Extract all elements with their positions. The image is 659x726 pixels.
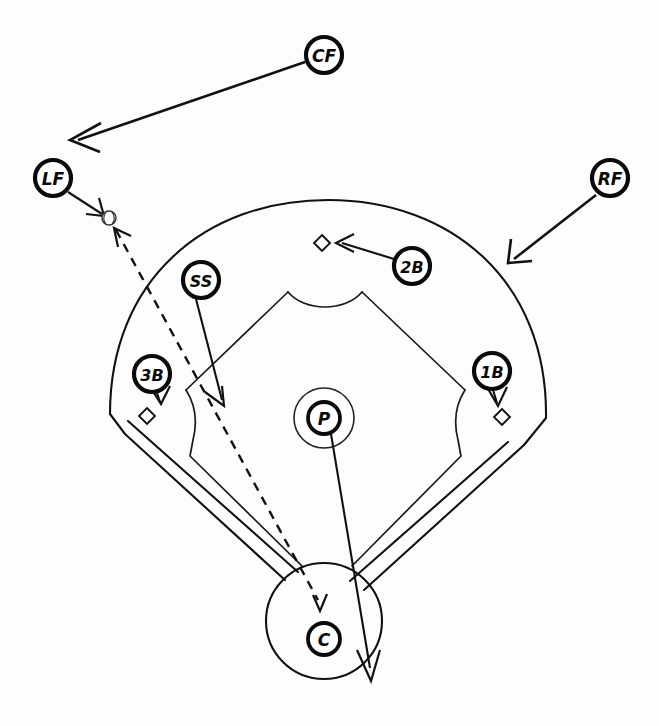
player-badge-1b[interactable]: 1B <box>474 353 510 389</box>
player-badge-p[interactable]: P <box>308 402 340 434</box>
lf-badge-label: LF <box>42 169 65 189</box>
rf-movement-line <box>514 195 596 259</box>
field-geometry <box>110 200 546 679</box>
first-baseman-badge-label: 1B <box>480 363 503 382</box>
player-badge-ss[interactable]: SS <box>183 262 219 298</box>
player-badge-lf[interactable]: LF <box>35 160 71 196</box>
second-baseman-badge-label: 2B <box>400 258 423 277</box>
player-badge-c[interactable]: C <box>308 623 340 655</box>
foul-line-right-outer <box>364 445 524 590</box>
infield-dirt-right <box>352 390 465 566</box>
third-baseman-badge-label: 3B <box>140 366 163 385</box>
diamond-arc-behind-second <box>288 292 362 307</box>
player-badge-3b[interactable]: 3B <box>134 356 170 392</box>
foul-line-left-outer <box>110 414 285 580</box>
diamond-edge-home-to-third <box>186 292 288 390</box>
field-illustration: CF LF RF 2B SS 3B <box>0 0 659 726</box>
first-base-marker <box>494 409 510 425</box>
third-base-marker <box>139 408 155 424</box>
baseball-marker <box>102 211 116 225</box>
player-badge-rf[interactable]: RF <box>592 160 628 196</box>
cf-badge-label: CF <box>312 46 336 66</box>
rf-arrow-head <box>508 239 532 263</box>
second-base-marker <box>314 235 330 251</box>
player-badge-cf[interactable]: CF <box>306 37 342 73</box>
player-badge-2b[interactable]: 2B <box>394 248 430 284</box>
lf-movement-line <box>68 192 102 214</box>
foul-line-left-inner <box>128 421 298 572</box>
foul-line-right-inner <box>350 442 508 581</box>
baseball-field-diagram: CF LF RF 2B SS 3B <box>0 0 659 726</box>
pitcher-badge-label: P <box>318 409 331 429</box>
shortstop-badge-label: SS <box>190 272 212 291</box>
rf-badge-label: RF <box>598 169 623 189</box>
home-plate-circle <box>266 563 382 679</box>
catcher-badge-label: C <box>318 630 331 650</box>
player-badges: CF LF RF 2B SS 3B <box>35 37 628 655</box>
cf-movement-line <box>78 62 305 140</box>
diamond-edge-home-to-first <box>362 292 465 390</box>
